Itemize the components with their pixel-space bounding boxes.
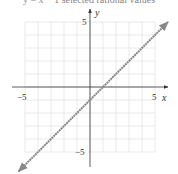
x-axis-label: x	[161, 92, 167, 103]
y-axis-label: y	[94, 7, 100, 18]
coordinate-plane: −5 5 5 −5 x y	[0, 0, 178, 174]
y-tick-max: 5	[82, 17, 87, 27]
y-tick-min: −5	[75, 147, 85, 157]
function-line	[19, 22, 169, 172]
x-tick-min: −5	[17, 92, 27, 102]
x-tick-max: 5	[152, 92, 157, 102]
